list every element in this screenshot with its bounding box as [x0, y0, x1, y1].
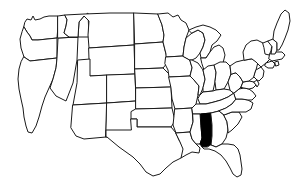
us-map-figure [0, 0, 292, 190]
state-south-dakota[interactable] [135, 42, 168, 69]
state-alabama-highlighted[interactable] [200, 113, 212, 147]
state-california[interactable] [18, 57, 57, 133]
state-kansas[interactable] [136, 87, 172, 109]
state-nebraska[interactable] [135, 68, 172, 88]
state-group-mountain [64, 13, 137, 139]
state-arizona[interactable] [71, 103, 107, 139]
state-florida[interactable] [202, 144, 242, 177]
state-arkansas[interactable] [173, 108, 193, 133]
state-rhode-island[interactable] [275, 61, 279, 66]
state-colorado[interactable] [107, 74, 136, 103]
state-oklahoma[interactable] [131, 108, 175, 127]
state-indiana[interactable] [203, 65, 216, 92]
state-wyoming[interactable] [89, 45, 135, 76]
us-map-svg [0, 0, 292, 190]
